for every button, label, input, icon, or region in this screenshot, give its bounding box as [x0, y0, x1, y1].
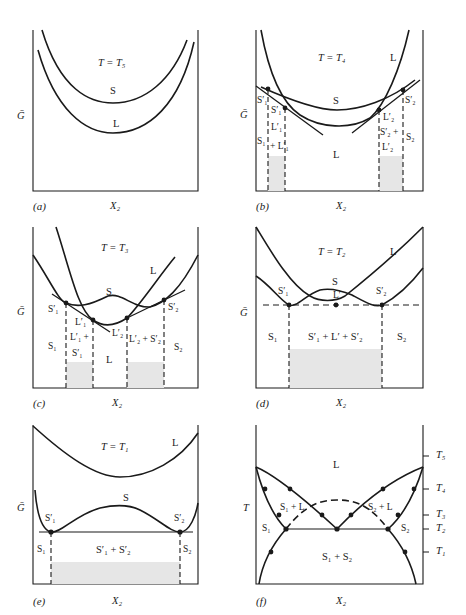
panel-e-ylabel: Ḡ — [17, 503, 25, 514]
panel-b-l2p-region: L′₂ — [382, 143, 393, 153]
panel-f-s1-s2: S₁ + S₂ — [322, 552, 352, 563]
panel-a-tag: (a) — [33, 201, 46, 212]
panel-f-tick-t3: T₃ — [436, 509, 446, 520]
panel-e-s2p: S′₂ — [174, 514, 185, 524]
panel-e-solid-label: S — [123, 493, 129, 504]
panel-c-liquid-region: L — [106, 355, 112, 366]
panel-a-graphics — [33, 30, 198, 191]
panel-d-solid-label: S — [332, 277, 338, 288]
panel-b-l1p: L′₁ — [271, 123, 282, 133]
panel-c-l1p: L′₁ — [75, 318, 86, 328]
panel-d-s1: S₁ — [268, 332, 278, 343]
panel-d-three-phase: S′₁ + L′ + S′₂ — [308, 332, 363, 343]
panel-d-xlabel: X₂ — [336, 398, 346, 409]
panel-a-title: T = T₅ — [98, 58, 125, 69]
panel-b-liquid-label: L — [390, 53, 396, 64]
panel-a-ylabel: Ḡ — [17, 111, 25, 122]
panel-c-liquid-label: L — [150, 266, 156, 277]
panel-c-xlabel: X₂ — [112, 398, 122, 409]
panel-d-s2: S₂ — [397, 332, 407, 343]
panel-b-s2: S₂ — [406, 133, 415, 143]
panel-d-ylabel: Ḡ — [240, 308, 248, 319]
panel-d-liquid-label: L — [390, 247, 396, 258]
panel-f-tick-t4: T₄ — [436, 483, 446, 494]
panel-e-title: T = T₁ — [101, 442, 128, 453]
panel-e-two-phase: S′₁ + S′₂ — [96, 545, 131, 556]
panel-e-liquid-label: L — [172, 438, 178, 449]
panel-f-tick-t1: T₁ — [436, 546, 446, 557]
panel-b-s2p-plus: S′₂ + — [380, 128, 398, 138]
panel-e-s1p: S′₁ — [45, 514, 56, 524]
panel-b-ylabel: Ḡ — [240, 110, 248, 121]
panel-f-tick-t2: T₂ — [436, 523, 446, 534]
panel-b-s2p: S′₂ — [405, 96, 416, 106]
panel-c-solid-label: S — [106, 287, 112, 298]
figure-canvas — [0, 0, 466, 615]
panel-f-ylabel: T — [243, 503, 249, 514]
panel-c-s2: S₂ — [174, 343, 183, 353]
panel-b-solid-label: S — [333, 96, 339, 107]
panel-e-xlabel: X₂ — [112, 596, 122, 607]
panel-d-tag: (d) — [256, 398, 269, 409]
panel-c-title: T = T₃ — [101, 243, 128, 254]
panel-f-s2: S₂ — [401, 524, 410, 534]
panel-b-liquid-region: L — [333, 150, 339, 161]
panel-e-tag: (e) — [33, 596, 45, 607]
panel-a-liquid-label: L — [113, 119, 119, 130]
panel-f-tag: (f) — [256, 596, 266, 607]
panel-e-s1: S₁ — [37, 545, 46, 555]
panel-b-l2p: L′₂ — [383, 113, 394, 123]
panel-e-s2: S₂ — [183, 545, 192, 555]
panel-f-xlabel: X₂ — [336, 596, 346, 607]
panel-c-l1p-plus: L′₁ + — [70, 333, 89, 343]
panel-b-s1p-a: S′₁ — [257, 96, 268, 106]
panel-b-title: T = T₄ — [318, 53, 345, 64]
panel-a-solid-label: S — [110, 86, 116, 97]
panel-b-xlabel: X₂ — [336, 201, 346, 212]
panel-f-s1: S₁ — [262, 524, 271, 534]
panel-d-s2p: S′₂ — [376, 287, 387, 297]
panel-c-s1: S₁ — [48, 342, 57, 352]
panel-c-s2p: S′₂ — [168, 303, 179, 313]
panel-d-title: T = T₂ — [318, 247, 345, 258]
panel-c-l2p-s2p: L′₂ + S′₂ — [129, 335, 161, 345]
panel-c-ylabel: Ḡ — [17, 307, 25, 318]
panel-d-s1p: S′₁ — [278, 287, 289, 297]
panel-b-s1: S₁ — [257, 137, 266, 147]
panel-b-s1p-b: S′₁ — [271, 106, 282, 116]
panel-f-liquid: L — [333, 460, 339, 471]
panel-f-s2-l: S₂ + L — [368, 503, 393, 513]
panel-f-tick-t5: T₅ — [436, 450, 446, 461]
panel-d-lp: L′ — [333, 291, 341, 301]
panel-c-tag: (c) — [33, 398, 45, 409]
panel-c-s1p-region: S′₁ — [72, 349, 83, 359]
panel-f-s1-l: S₁ + L — [280, 503, 305, 513]
panel-b-tag: (b) — [256, 201, 269, 212]
panel-c-s1p: S′₁ — [48, 305, 59, 315]
panel-b-plus-l1p: + L′₁ — [270, 142, 289, 152]
panel-a-xlabel: X₂ — [110, 201, 120, 212]
panel-c-l2p: L′₂ — [112, 329, 123, 339]
